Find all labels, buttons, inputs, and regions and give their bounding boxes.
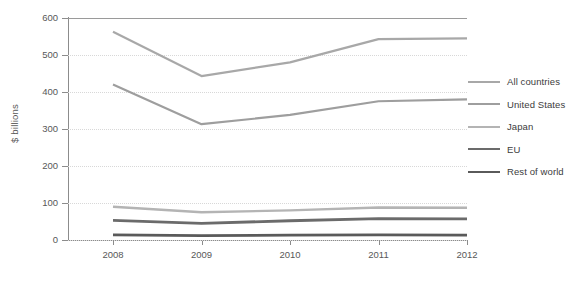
y-axis-tick-label: 300 — [26, 123, 58, 134]
legend-label: United States — [507, 99, 565, 110]
legend-label: All countries — [507, 76, 560, 87]
legend-item[interactable]: All countries — [468, 76, 565, 87]
y-axis-tick-label: 200 — [26, 160, 58, 171]
y-axis-tick-label: 600 — [26, 12, 58, 23]
x-axis-tick-label: 2009 — [191, 249, 212, 260]
legend-label: Rest of world — [507, 166, 564, 177]
series-line — [113, 235, 467, 236]
legend-item[interactable]: Rest of world — [468, 166, 565, 177]
series-line — [113, 219, 467, 224]
x-axis-tick-mark — [467, 240, 468, 245]
series-line — [113, 85, 467, 125]
legend-item[interactable]: United States — [468, 99, 565, 110]
x-axis-tick-label: 2008 — [102, 249, 123, 260]
legend-item[interactable]: EU — [468, 144, 565, 155]
plot-area — [68, 18, 467, 240]
series-line — [113, 32, 467, 76]
series-lines — [68, 18, 467, 240]
legend-swatch-icon — [468, 171, 500, 173]
gridline — [68, 240, 467, 241]
x-axis-tick-label: 2011 — [368, 249, 388, 260]
series-line — [113, 207, 467, 213]
legend-swatch-icon — [468, 103, 500, 105]
x-axis-tick-label: 2012 — [456, 249, 477, 260]
legend-swatch-icon — [468, 148, 500, 150]
legend-label: Japan — [507, 121, 533, 132]
chart-figure: $ billions 0100200300400500600 200820092… — [0, 0, 584, 282]
y-axis-tick-label: 0 — [26, 234, 58, 245]
y-axis-title: $ billions — [9, 88, 20, 160]
legend-label: EU — [507, 144, 520, 155]
y-axis-tick-label: 400 — [26, 86, 58, 97]
y-axis-tick-label: 100 — [26, 197, 58, 208]
legend: All countriesUnited StatesJapanEURest of… — [468, 76, 565, 177]
legend-swatch-icon — [468, 126, 500, 128]
x-axis-tick-label: 2010 — [279, 249, 300, 260]
legend-swatch-icon — [468, 81, 500, 83]
y-axis-tick-label: 500 — [26, 49, 58, 60]
legend-item[interactable]: Japan — [468, 121, 565, 132]
